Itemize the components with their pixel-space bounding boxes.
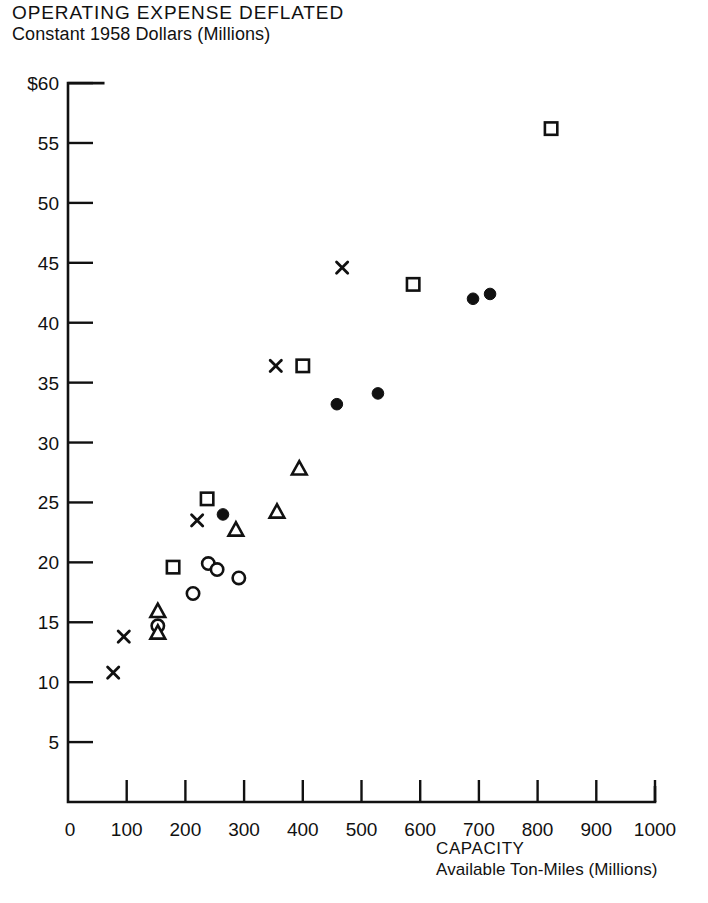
data-markers [108, 122, 558, 678]
y-tick-label: 55 [38, 133, 59, 154]
x-tick-label: 600 [404, 819, 436, 840]
x-tick-label: 100 [111, 819, 143, 840]
x-tick-label: 700 [463, 819, 495, 840]
x-axis-label-block: CAPACITY Available Ton-Miles (Millions) [436, 838, 658, 881]
marker-open-circle [211, 563, 223, 575]
y-tick-label: 20 [38, 552, 59, 573]
x-axis-label: CAPACITY [436, 838, 658, 859]
marker-filled-circle [217, 509, 229, 521]
axis-spine [68, 83, 655, 802]
x-tick-label: 900 [580, 819, 612, 840]
y-axis-ticks: 510152025303540455055$600 [27, 73, 93, 840]
marker-x [337, 262, 348, 273]
y-tick-label: $60 [27, 73, 59, 94]
y-tick-label: 10 [38, 672, 59, 693]
x-axis-sublabel: Available Ton-Miles (Millions) [436, 859, 658, 880]
marker-filled-circle [331, 398, 343, 410]
x-tick-label: 300 [228, 819, 260, 840]
x-tick-label: 400 [287, 819, 319, 840]
marker-filled-circle [467, 293, 479, 305]
axes-group [68, 83, 655, 802]
marker-open-triangle [150, 604, 165, 617]
marker-x [192, 515, 203, 526]
chart-title: OPERATING EXPENSE DEFLATED [12, 2, 344, 24]
marker-filled-circle [484, 288, 496, 300]
origin-label: 0 [65, 819, 76, 840]
marker-filled-circle [372, 388, 384, 400]
series-triangle [150, 461, 306, 638]
marker-open-square [545, 122, 557, 134]
y-tick-label: 15 [38, 612, 59, 633]
series-square [167, 122, 557, 573]
chart-figure: OPERATING EXPENSE DEFLATED Constant 1958… [0, 0, 708, 903]
chart-subtitle: Constant 1958 Dollars (Millions) [12, 24, 344, 45]
marker-open-triangle [292, 461, 307, 474]
marker-open-square [167, 561, 179, 573]
y-tick-label: 5 [48, 732, 59, 753]
x-tick-label: 800 [522, 819, 554, 840]
y-tick-label: 35 [38, 373, 59, 394]
marker-x [118, 631, 129, 642]
scatter-plot-canvas: 510152025303540455055$600 10020030040050… [0, 0, 708, 903]
marker-open-square [407, 278, 419, 290]
marker-open-circle [233, 572, 245, 584]
marker-open-triangle [229, 522, 244, 535]
marker-x [270, 360, 281, 371]
y-tick-label: 40 [38, 313, 59, 334]
y-tick-label: 45 [38, 253, 59, 274]
series-x-mark [108, 262, 348, 678]
series-filled-circle [217, 288, 496, 520]
x-tick-label: 1000 [634, 819, 676, 840]
marker-open-square [297, 360, 309, 372]
marker-open-square [201, 493, 213, 505]
x-tick-label: 200 [170, 819, 202, 840]
x-axis-ticks: 1002003004005006007008009001000 [111, 780, 676, 840]
x-tick-label: 500 [346, 819, 378, 840]
y-tick-label: 50 [38, 193, 59, 214]
y-tick-label: 25 [38, 492, 59, 513]
title-block: OPERATING EXPENSE DEFLATED Constant 1958… [12, 2, 344, 46]
marker-x [108, 667, 119, 678]
y-tick-label: 30 [38, 433, 59, 454]
marker-open-circle [187, 587, 199, 599]
marker-open-triangle [270, 504, 285, 517]
